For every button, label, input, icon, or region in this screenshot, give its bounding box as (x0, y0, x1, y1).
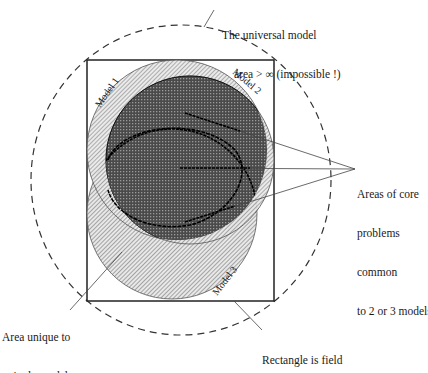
unique-label-line-1: Area unique to (2, 331, 68, 344)
universal-model-label: The universal model area > ∞ (impossible… (222, 3, 341, 94)
universal-leader (204, 10, 214, 27)
core-label-line-4: to 2 or 3 models (357, 305, 428, 318)
universal-label-line-2: area > ∞ (impossible !) (222, 68, 341, 81)
rectangle-leader (234, 301, 262, 330)
core-label-line-2: problems (357, 227, 428, 240)
core-label-line-1: Areas of core (357, 188, 428, 201)
rectangle-label: Rectangle is field of all possible patie… (262, 328, 342, 373)
unique-area-label: Area unique to single model number 3 (2, 305, 68, 373)
rectangle-label-line-1: Rectangle is field (262, 354, 342, 367)
core-label-line-3: common (357, 266, 428, 279)
universal-label-line-1: The universal model (222, 29, 341, 42)
core-areas-label: Areas of core problems common to 2 or 3 … (357, 162, 428, 331)
